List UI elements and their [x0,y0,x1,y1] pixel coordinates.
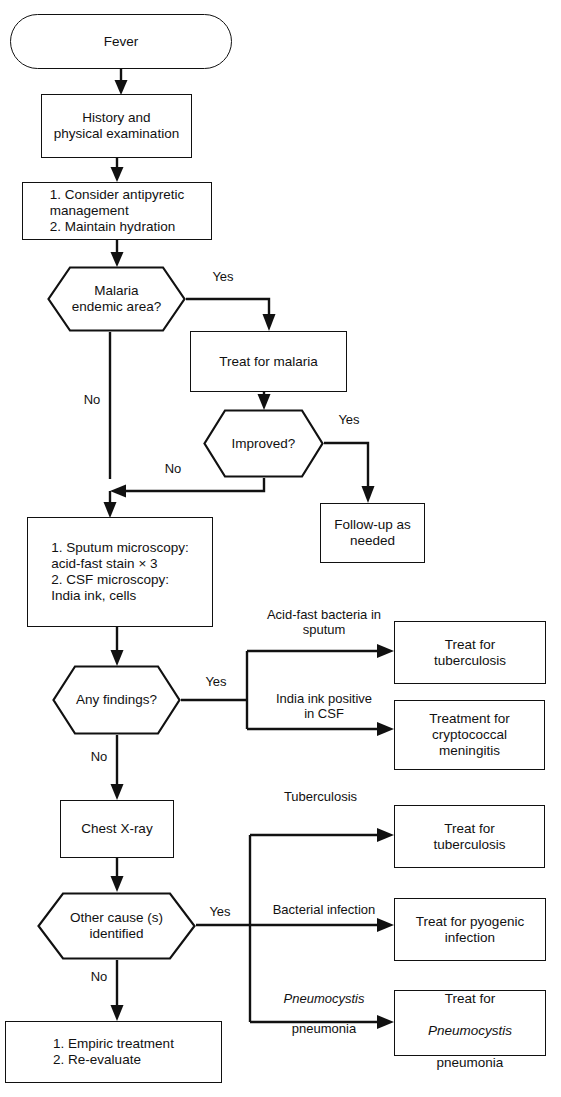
edge-label-tuberculosis: Tuberculosis [253,790,388,805]
edge-label-india-ink-positive: India ink positive in CSF [251,692,397,722]
edge-label-malaria-no: No [77,393,107,408]
node-any-findings-label: Any findings? [72,692,161,708]
node-malaria-endemic-question[interactable]: Malaria endemic area? [47,266,186,332]
edge-label-bacterial-infection: Bacterial infection [254,903,394,918]
node-treat-pyogenic-label: Treat for pyogenic infection [412,914,528,946]
node-microscopy-label: 1. Sputum microscopy: acid-fast stain × … [47,540,192,604]
node-any-findings-question[interactable]: Any findings? [52,665,181,735]
node-history-physical-exam[interactable]: History and physical examination [41,94,192,158]
edge-label-pcp-second: pneumonia [292,1021,356,1036]
node-antipyretic-label: 1. Consider antipyretic management 2. Ma… [46,187,188,235]
node-treat-pyogenic-infection[interactable]: Treat for pyogenic infection [394,898,546,961]
edge-label-acid-fast-bacteria: Acid-fast bacteria in sputum [251,608,397,638]
node-other-cause-label: Other cause (s) identified [66,910,167,942]
node-improved-label: Improved? [228,436,300,452]
edge-label-other-cause-yes: Yes [200,905,240,920]
node-treat-pneumocystis-pneumonia[interactable]: Treat for Pneumocystis pneumonia [394,990,546,1056]
node-fever[interactable]: Fever [10,14,232,69]
node-treat-pcp-line2-italic: Pneumocystis [428,1023,512,1038]
node-treat-tuberculosis-2[interactable]: Treat for tuberculosis [394,805,545,868]
node-treat-pcp-line1: Treat for [445,991,496,1006]
node-treat-malaria-label: Treat for malaria [215,354,322,370]
node-empiric-treatment[interactable]: 1. Empiric treatment 2. Re-evaluate [5,1021,222,1083]
edge-label-pcp-italic: Pneumocystis [284,991,365,1006]
node-treat-tb-1-label: Treat for tuberculosis [430,637,510,669]
node-treat-tuberculosis-1[interactable]: Treat for tuberculosis [394,621,546,684]
edge-label-other-cause-no: No [84,970,114,985]
node-treat-pcp-lines: Treat for Pneumocystis pneumonia [424,975,516,1071]
node-empiric-label: 1. Empiric treatment 2. Re-evaluate [49,1036,178,1068]
node-other-cause-question[interactable]: Other cause (s) identified [37,892,196,960]
edge-label-improved-no: No [157,462,189,477]
node-malaria-label: Malaria endemic area? [68,283,165,315]
node-chest-xray-label: Chest X-ray [77,821,156,837]
edge-label-malaria-yes: Yes [203,270,243,285]
node-treat-for-malaria[interactable]: Treat for malaria [190,331,347,392]
fever-algorithm-flowchart: Fever History and physical examination 1… [0,0,561,1097]
node-history-label: History and physical examination [50,110,183,142]
node-treat-tb-2-label: Treat for tuberculosis [429,821,509,853]
node-improved-question[interactable]: Improved? [203,409,324,478]
node-chest-xray[interactable]: Chest X-ray [60,800,174,858]
node-treat-cryptococcal-meningitis[interactable]: Treatment for cryptococcal meningitis [394,700,545,770]
node-followup-label: Follow-up as needed [330,517,415,549]
edge-label-improved-yes: Yes [329,413,369,428]
edge-label-findings-no: No [84,750,114,765]
edge-label-findings-yes: Yes [196,675,236,690]
node-follow-up-as-needed[interactable]: Follow-up as needed [320,503,425,563]
node-treat-crypto-label: Treatment for cryptococcal meningitis [425,711,514,759]
node-antipyretic-management[interactable]: 1. Consider antipyretic management 2. Ma… [22,182,212,240]
node-fever-label: Fever [100,34,143,50]
node-treat-pcp-line3: pneumonia [437,1055,504,1070]
node-microscopy-tests[interactable]: 1. Sputum microscopy: acid-fast stain × … [27,517,213,627]
edge-label-pneumocystis-pneumonia: Pneumocystis pneumonia [254,977,394,1037]
